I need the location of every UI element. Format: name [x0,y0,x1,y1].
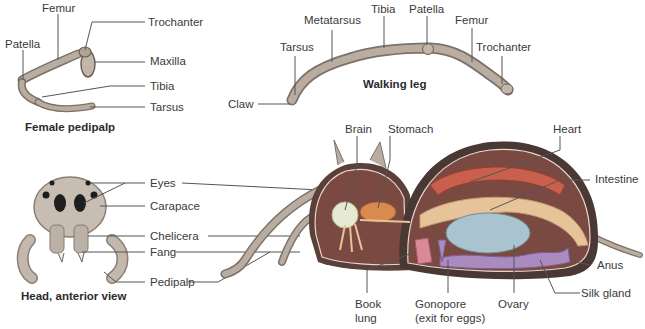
pedipalp-label-femur: Femur [42,2,75,15]
pedipalp-label-tarsus: Tarsus [150,101,184,114]
diagram-artwork [0,0,645,329]
body-label-anus: Anus [597,259,623,272]
head-label-fang: Fang [150,246,176,259]
head-label-pedipalp: Pedipalp [150,276,195,289]
pedipalp-caption: Female pedipalp [25,121,115,133]
body-label-intestine: Intestine [595,173,638,186]
leg-label-tarsus: Tarsus [280,41,314,54]
body-label-gonopore: Gonopore [415,298,466,311]
body-label-heart: Heart [553,123,581,136]
leg-label-metatarsus: Metatarsus [304,14,361,27]
body-label-ovary: Ovary [498,298,529,311]
head-caption: Head, anterior view [21,290,126,302]
body-illustration [225,140,640,279]
body-label-stomach: Stomach [388,123,433,136]
body-label-silk-gland: Silk gland [581,287,631,300]
pedipalp-label-maxilla: Maxilla [150,55,186,68]
leg-label-femur: Femur [455,14,488,27]
pedipalp-label-patella: Patella [5,38,40,51]
leg-label-trochanter: Trochanter [476,41,531,54]
head-illustration [23,177,123,278]
head-label-eyes: Eyes [150,177,176,190]
body-label-gonopore-note: (exit for eggs) [415,312,485,325]
body-label-book-lung: Book [355,298,381,311]
spider-anatomy-diagram: Femur Patella Trochanter Maxilla Tibia T… [0,0,645,329]
leg-caption: Walking leg [363,78,426,90]
head-label-carapace: Carapace [150,200,200,213]
leg-label-claw: Claw [228,98,254,111]
body-label-book-lung-2: lung [355,312,377,325]
pedipalp-label-trochanter: Trochanter [148,16,203,29]
body-label-brain: Brain [345,123,372,136]
pedipalp-label-tibia: Tibia [150,80,175,93]
head-label-chelicera: Chelicera [150,230,199,243]
leg-label-tibia: Tibia [371,3,396,16]
leg-label-patella: Patella [409,3,444,16]
